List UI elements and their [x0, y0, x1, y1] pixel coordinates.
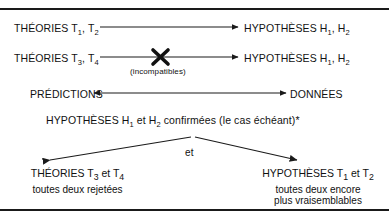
right-outcome-line-2: plus vraisemblables: [248, 195, 388, 207]
left-outcome-block: THÉORIES T3 et T4 toutes deux rejetées: [10, 168, 145, 195]
left-outcome-heading: THÉORIES T3 et T4: [10, 168, 145, 184]
confirmation-mid: et H: [134, 114, 157, 126]
confirmation-sub1: 1: [129, 120, 133, 129]
row2-right-sub1: 1: [327, 58, 331, 67]
row1-right-label: HYPOTHÈSES H1, H2: [244, 22, 350, 34]
right-outcome-line-1: toutes deux encore: [248, 184, 388, 196]
branch-right-arrow: [195, 137, 297, 160]
row2-left-sub1: 3: [78, 58, 82, 67]
left-outcome-line-1: toutes deux rejetées: [10, 184, 145, 196]
bottom-divider-rule: [0, 209, 389, 211]
row2-left-label: THÉORIES T3, T4: [14, 52, 99, 64]
donnees-label: DONNÉES: [290, 88, 343, 100]
row2-left-mid: , T: [82, 52, 94, 64]
left-outcome-head-text: THÉORIES T: [31, 167, 94, 179]
row2-right-sub2: 2: [345, 58, 349, 67]
row1-right-sub2: 2: [345, 28, 349, 37]
row1-right-sub1: 1: [327, 28, 331, 37]
row1-left-label: THÉORIES T1, T2: [14, 22, 99, 34]
left-outcome-sub2: 4: [119, 172, 124, 182]
row1-left-mid: , T: [82, 22, 94, 34]
confirmation-prefix: HYPOTHÈSES H: [46, 114, 129, 126]
top-divider-rule: [0, 8, 389, 10]
branch-connector-label: et: [185, 147, 194, 159]
row2-right-text: HYPOTHÈSES H: [244, 52, 327, 64]
right-outcome-mid: et T: [348, 167, 369, 179]
confirmation-suffix: confirmées (le cas échéant)*: [161, 114, 300, 126]
row1-right-mid: , H: [332, 22, 346, 34]
right-outcome-sub2: 2: [369, 172, 374, 182]
right-outcome-heading: HYPOTHÈSES T1 et T2: [248, 168, 388, 184]
row2-left-text: THÉORIES T: [14, 52, 78, 64]
row2-right-label: HYPOTHÈSES H1, H2: [244, 52, 350, 64]
confirmation-statement: HYPOTHÈSES H1 et H2 confirmées (le cas é…: [46, 114, 300, 126]
row1-right-text: HYPOTHÈSES H: [244, 22, 327, 34]
branch-left-arrow: [50, 137, 191, 160]
diagram-figure: THÉORIES T1, T2 HYPOTHÈSES H1, H2 THÉORI…: [0, 0, 389, 219]
predictions-label: PRÉDICTIONS: [30, 88, 103, 100]
right-outcome-block: HYPOTHÈSES T1 et T2 toutes deux encore p…: [248, 168, 388, 207]
row2-left-sub2: 4: [94, 58, 98, 67]
row1-left-text: THÉORIES T: [14, 22, 78, 34]
confirmation-sub2: 2: [156, 120, 160, 129]
row2-right-mid: , H: [332, 52, 346, 64]
left-outcome-mid: et T: [99, 167, 120, 179]
row1-left-sub1: 1: [78, 28, 82, 37]
row1-left-sub2: 2: [94, 28, 98, 37]
incompatibles-annotation: (incompatibles): [130, 66, 186, 78]
incompatibility-cross-icon: [153, 50, 168, 64]
right-outcome-head-text: HYPOTHÈSES T: [262, 167, 343, 179]
